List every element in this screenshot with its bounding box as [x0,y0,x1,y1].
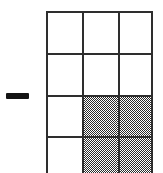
grid-figure [46,11,153,173]
grid-cell-r2-c1 [46,53,82,95]
grid-cell-r2-c3 [118,53,153,95]
grid-vertical-line-0 [46,11,48,173]
grid-horizontal-line-0 [46,11,153,13]
grid-cell-r2-c2 [82,53,118,95]
grid-cell-r4-c2 [82,136,118,173]
grid-cell-r1-c1 [46,11,82,53]
grid-cell-r4-c1 [46,136,82,173]
grid-cell-r1-c3 [118,11,153,53]
grid-cell-r3-c3 [118,95,153,136]
grid-cells-layer [46,11,153,173]
grid-cell-r4-c3 [118,136,153,173]
grid-cell-r1-c2 [82,11,118,53]
grid-horizontal-line-2 [46,95,153,97]
minus-sign-icon [6,93,29,99]
grid-horizontal-line-3 [46,136,153,138]
grid-cell-r3-c1 [46,95,82,136]
grid-horizontal-line-1 [46,53,153,55]
grid-cell-r3-c2 [82,95,118,136]
grid-vertical-line-2 [118,11,120,173]
grid-vertical-line-3 [151,11,153,173]
grid-vertical-line-1 [82,11,84,173]
fraction-area-model-figure [0,0,163,173]
